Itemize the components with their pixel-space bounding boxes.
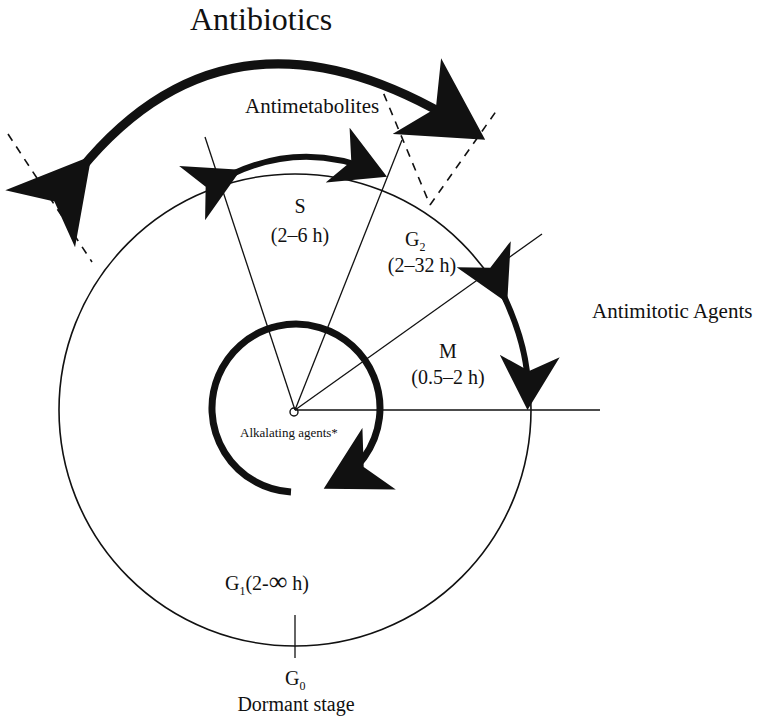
antimetabolites-arrow <box>230 157 376 175</box>
s-phase-label: S <box>294 195 305 217</box>
m-phase-label: M <box>439 340 457 362</box>
g0-description: Dormant stage <box>237 693 354 716</box>
infinity-icon: ∞ <box>269 567 288 596</box>
alkylating-label: Alkalating agents* <box>240 425 338 440</box>
antimitotic-arrow <box>502 292 528 398</box>
g0-label: G0 <box>285 667 305 693</box>
antimetabolites-label: Antimetabolites <box>245 94 379 118</box>
g2-phase-label: G2 <box>405 228 425 254</box>
center-point <box>290 408 298 416</box>
s-phase-duration: (2–6 h) <box>271 224 329 247</box>
g2-phase-duration: (2–32 h) <box>388 254 456 277</box>
antibiotics-label: Antibiotics <box>190 1 332 37</box>
m-phase-duration: (0.5–2 h) <box>411 366 484 389</box>
antimitotic-label: Antimitotic Agents <box>592 299 752 323</box>
cell-cycle-diagram: Antibiotics Antimetabolites Antimitotic … <box>0 0 760 722</box>
g1-phase-label: G1(2-∞ h) <box>225 567 309 598</box>
